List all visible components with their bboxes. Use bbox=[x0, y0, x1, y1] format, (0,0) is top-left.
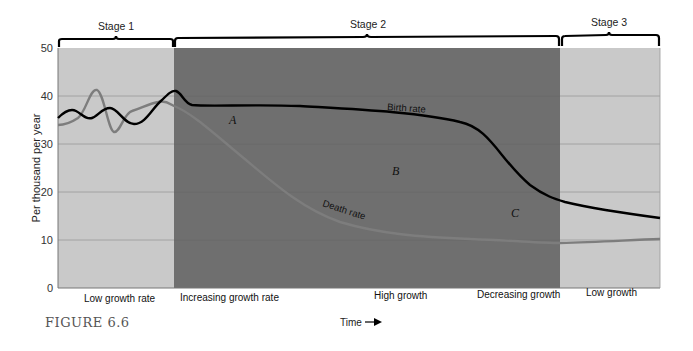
stage2-region bbox=[174, 48, 560, 288]
figure-label: FIGURE 6.6 bbox=[45, 315, 130, 330]
annotation-a: A bbox=[228, 113, 237, 127]
stage2-bracket bbox=[175, 34, 559, 47]
phase-labels: Low growth rate Increasing growth rate H… bbox=[84, 287, 637, 304]
y-tick-20: 20 bbox=[41, 186, 53, 198]
stage3-label: Stage 3 bbox=[591, 16, 627, 28]
phase-low-growth-rate: Low growth rate bbox=[84, 293, 156, 304]
stage3-region bbox=[560, 48, 660, 288]
y-tick-labels: 50 40 30 20 10 0 bbox=[41, 42, 53, 294]
stage1-label: Stage 1 bbox=[98, 20, 134, 32]
stage-brackets bbox=[59, 32, 659, 47]
y-tick-30: 30 bbox=[41, 138, 53, 150]
y-tick-0: 0 bbox=[47, 282, 53, 294]
phase-high-growth: High growth bbox=[374, 290, 427, 301]
time-arrow-icon bbox=[365, 318, 382, 326]
stage1-bracket bbox=[59, 36, 173, 47]
stage2-label: Stage 2 bbox=[350, 18, 386, 30]
y-tick-10: 10 bbox=[41, 234, 53, 246]
y-axis-label: Per thousand per year bbox=[30, 113, 42, 222]
phase-low-growth: Low growth bbox=[586, 287, 637, 298]
phase-increasing-growth-rate: Increasing growth rate bbox=[180, 292, 279, 303]
stage1-region bbox=[58, 48, 174, 288]
stage3-bracket bbox=[562, 32, 659, 46]
annotation-c: C bbox=[511, 206, 520, 220]
phase-decreasing-growth: Decreasing growth bbox=[477, 289, 560, 300]
demographic-transition-chart: 50 40 30 20 10 0 Per thousand per year B… bbox=[0, 0, 693, 351]
y-tick-50: 50 bbox=[41, 42, 53, 54]
x-axis-label: Time bbox=[340, 317, 362, 328]
annotation-b: B bbox=[392, 164, 400, 178]
y-tick-40: 40 bbox=[41, 90, 53, 102]
